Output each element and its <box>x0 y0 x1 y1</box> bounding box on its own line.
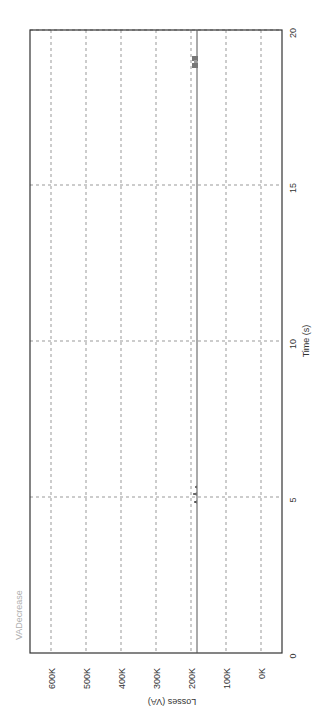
chart-title: VADecrease <box>14 590 24 640</box>
x-tick-5: 5 <box>288 497 298 502</box>
x-tick-15: 15 <box>288 183 298 193</box>
grid-lines <box>30 30 282 653</box>
x-tick-20: 20 <box>288 28 298 38</box>
y-axis-label: Losses (VA) <box>148 697 196 707</box>
chart: VADecrease 600K 500K 400K 300K 200K 100K… <box>0 0 321 724</box>
time-axis-ticks: 0 5 10 15 20 <box>288 28 298 659</box>
y-tick-400k: 400K <box>117 668 127 689</box>
y-tick-0k: 0K <box>257 668 267 679</box>
value-axis-ticks: 600K 500K 400K 300K 200K 100K 0K <box>47 668 267 689</box>
y-tick-600k: 600K <box>47 668 57 689</box>
x-tick-0: 0 <box>288 653 298 658</box>
x-axis-label: Time (s) <box>301 325 311 358</box>
x-tick-10: 10 <box>288 339 298 349</box>
y-tick-300k: 300K <box>152 668 162 689</box>
y-tick-200k: 200K <box>187 668 197 689</box>
y-tick-500k: 500K <box>82 668 92 689</box>
y-tick-100k: 100K <box>222 668 232 689</box>
